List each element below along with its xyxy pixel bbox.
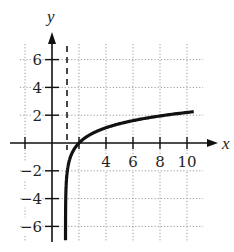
x-tick-label: 4 (101, 153, 111, 171)
x-tick-label: 10 (177, 153, 196, 171)
y-tick-label: 4 (32, 79, 42, 97)
y-tick-label: −4 (20, 190, 42, 208)
x-axis-label: x (221, 134, 230, 153)
x-axis-arrow-icon (207, 139, 218, 147)
log-function-graph: 46810642−2−4−6 x y (0, 0, 234, 252)
y-tick-label: 6 (32, 51, 42, 69)
y-axis-arrow-icon (48, 32, 56, 44)
x-tick-label: 8 (155, 153, 165, 171)
y-tick-label: −6 (20, 218, 42, 236)
y-axis-label: y (45, 7, 55, 26)
function-curve (66, 112, 194, 241)
y-tick-label: 2 (32, 107, 42, 125)
x-tick-label: 6 (128, 153, 138, 171)
y-tick-label: −2 (20, 162, 42, 180)
